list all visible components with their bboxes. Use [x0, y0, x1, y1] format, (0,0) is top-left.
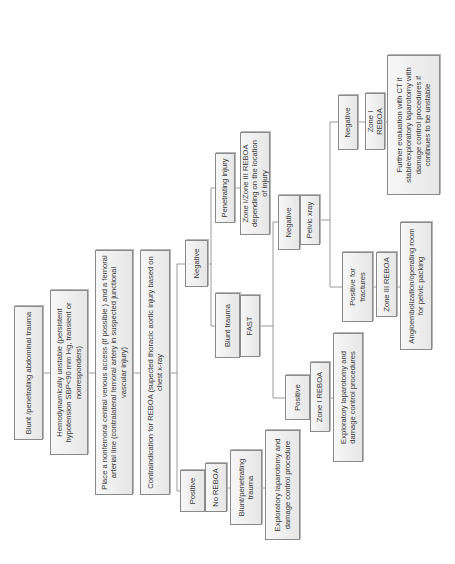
node-further-evaluation: Further evaluation with CT if stable/exp…	[387, 55, 440, 195]
node-reboa-contraindication: Contraindication for REBOA (supected tho…	[140, 250, 170, 495]
node-start: Blunt /penetrating abdominal trauma	[14, 306, 43, 440]
node-pelvic-zone-i-reboa: Zone I REBOA	[365, 93, 385, 150]
node-zone-i-iii-reboa: Zone I/Zone III REBOA depending on the l…	[240, 132, 270, 235]
node-pelvic-xray: Pelvic xray	[300, 195, 320, 245]
node-fast-positive: Positive	[285, 375, 310, 420]
node-exploratory-laparotomy-left: Exploratory laparotomy and damage contro…	[265, 430, 300, 540]
node-fast-zone-i-reboa: Zone I REBOA	[310, 362, 330, 432]
node-fast-negative: Negative	[278, 195, 300, 250]
node-pelvic-negative: Negative	[338, 95, 358, 150]
node-angioembolization: Angioembolization/operating room for pel…	[400, 222, 432, 350]
flowchart: Blunt /penetrating abdominal trauma Hemo…	[0, 0, 455, 564]
node-blunt-trauma: Blunt trauma	[215, 293, 240, 358]
node-positive-main: Positive	[180, 470, 205, 512]
node-fast-exploratory-laparotomy: Exploratory laparotomy and damage contro…	[333, 333, 363, 462]
node-fast: FAST	[240, 295, 260, 357]
node-central-access: Place a nonfemoral central venous access…	[95, 250, 133, 495]
node-blunt-penetrating-trauma: Blunt/penetrating trauma	[230, 450, 262, 525]
node-negative-main: Negative	[185, 240, 208, 287]
node-no-reboa: No REBOA	[205, 463, 227, 512]
node-penetrating-injury: Penetrating injury	[215, 153, 235, 223]
node-positive-fractures: Positive for fractures	[342, 252, 373, 322]
node-zone-iii-reboa: Zone III REBOA	[376, 252, 397, 317]
node-hemodynamically-unstable: Hemodynamically unstable (persistent hyp…	[50, 290, 88, 455]
